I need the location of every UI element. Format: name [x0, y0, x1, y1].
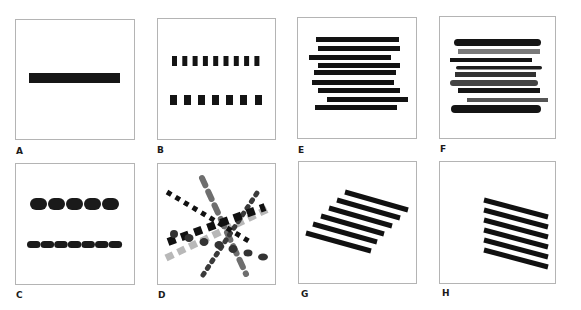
panel-label-b: B	[157, 146, 164, 155]
panel-label-g: G	[301, 290, 308, 299]
panel-b	[157, 18, 276, 140]
panel-d	[157, 163, 276, 285]
panel-label-h: H	[442, 289, 450, 298]
panel-label-e: E	[298, 146, 304, 155]
panel-e	[297, 17, 417, 139]
panel-label-f: F	[440, 145, 446, 154]
panel-f	[439, 16, 556, 139]
panel-label-c: C	[16, 291, 23, 300]
panel-a	[15, 19, 135, 140]
panel-g	[298, 161, 417, 284]
panel-c	[15, 163, 135, 285]
panel-h	[439, 161, 556, 284]
panel-label-a: A	[16, 147, 23, 156]
panel-label-d: D	[158, 291, 165, 300]
